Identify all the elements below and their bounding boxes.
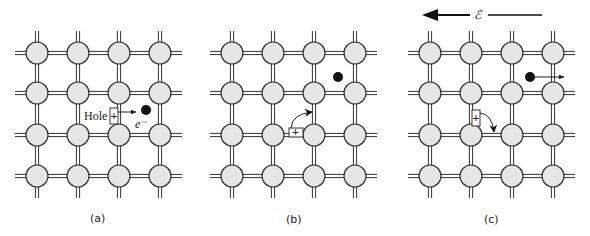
hole-symbol: + (111, 109, 118, 123)
atom (108, 124, 130, 146)
atom (108, 82, 130, 104)
hole-symbol: + (292, 125, 299, 139)
atom (303, 165, 325, 187)
atom (460, 82, 482, 104)
atom (419, 165, 441, 187)
atom (344, 42, 366, 64)
atom (26, 124, 48, 146)
hole-symbol: + (473, 111, 480, 125)
electron (333, 72, 343, 82)
atom (108, 42, 130, 64)
electron (141, 105, 151, 115)
atom (262, 82, 284, 104)
lattice-panel-b (210, 31, 377, 198)
panel-label-a: (a) (90, 212, 105, 225)
atom (460, 124, 482, 146)
semiconductor-lattice-diagram: ℰ Hole + e⁻ + + (a) (b) (c) (0, 0, 590, 236)
electron-label: e⁻ (135, 117, 148, 131)
atom (542, 165, 564, 187)
atom (501, 82, 523, 104)
atom (501, 124, 523, 146)
field-label: ℰ (474, 8, 483, 22)
electric-field-arrow: ℰ (422, 8, 542, 22)
atom (67, 165, 89, 187)
atom (67, 82, 89, 104)
atom (460, 165, 482, 187)
atom (542, 42, 564, 64)
atom (501, 165, 523, 187)
atom (26, 42, 48, 64)
atom (542, 124, 564, 146)
atom (26, 82, 48, 104)
atom (542, 82, 564, 104)
atom (303, 42, 325, 64)
atom (67, 42, 89, 64)
atom (149, 82, 171, 104)
atom (221, 42, 243, 64)
atom (26, 165, 48, 187)
atom (501, 42, 523, 64)
panel-label-c: (c) (484, 213, 499, 226)
atom (460, 42, 482, 64)
atom (108, 165, 130, 187)
atom (149, 165, 171, 187)
atom (262, 42, 284, 64)
atom (149, 124, 171, 146)
panel-label-b: (b) (286, 213, 302, 226)
atom (303, 124, 325, 146)
lattice-panel-c (408, 31, 575, 198)
arrow-left-icon (422, 9, 438, 21)
atom (344, 124, 366, 146)
atom (67, 124, 89, 146)
atom (344, 82, 366, 104)
atom (262, 124, 284, 146)
hole-drift-arrow (480, 113, 494, 132)
atom (419, 124, 441, 146)
atom (221, 165, 243, 187)
hole-label: Hole (84, 109, 107, 123)
atom (419, 42, 441, 64)
atom (303, 82, 325, 104)
atom (262, 165, 284, 187)
atom (221, 124, 243, 146)
atom (419, 82, 441, 104)
atom (221, 82, 243, 104)
atom (149, 42, 171, 64)
atom (344, 165, 366, 187)
electron (525, 72, 535, 82)
